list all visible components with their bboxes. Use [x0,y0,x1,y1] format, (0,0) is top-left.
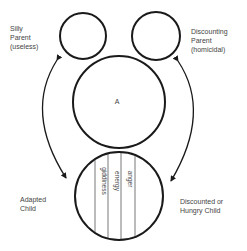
segment-label-anger: anger [126,171,134,188]
silly-parent-circle [60,13,106,59]
segment-label-giddiness: giddiness [100,167,108,195]
discounted-child-label: Discounted or Hungry Child [180,197,223,215]
discounting-parent-line-3: (homicidal) [191,45,228,54]
discounting-parent-line-2: Parent [191,36,228,45]
adapted-child-label: Adapted Child [20,195,46,213]
left-double-arrow [42,60,66,178]
adapted-child-line-2: Child [20,204,46,213]
discounted-child-line-1: Discounted or [180,197,223,206]
adapted-child-line-1: Adapted [20,195,46,204]
segment-label-energy: energy [113,171,121,192]
discounting-parent-label: Discounting Parent (homicidal) [191,27,228,54]
discounted-child-line-2: Hungry Child [180,206,223,215]
silly-parent-line-2: Parent [10,33,38,42]
child-circle [75,152,163,240]
silly-parent-label: Silly Parent (useless) [10,24,38,51]
silly-parent-line-1: Silly [10,24,38,33]
right-double-arrow [171,61,193,181]
discounting-parent-circle [132,12,180,60]
silly-parent-line-3: (useless) [10,42,38,51]
child-segment-lines [95,150,135,245]
discounting-parent-line-1: Discounting [191,27,228,36]
adult-label: A [115,98,120,105]
